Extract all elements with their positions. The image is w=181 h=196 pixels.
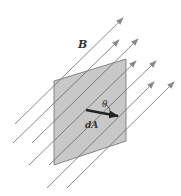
area-label-da: dA — [85, 120, 98, 130]
magnetic-flux-diagram: B θ dA — [0, 0, 181, 196]
diagram-canvas — [0, 0, 181, 196]
field-lines-front — [13, 18, 174, 188]
angle-label-theta: θ — [102, 99, 107, 109]
field-label-b: B — [78, 38, 87, 51]
